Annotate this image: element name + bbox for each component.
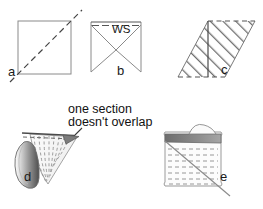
panel-e-drawing <box>150 96 263 209</box>
panel-e-label: e <box>220 170 227 183</box>
panel-d-label: d <box>24 170 31 183</box>
folded-flap-e <box>189 124 216 134</box>
top-band-shaded-e <box>165 134 221 143</box>
panel-c <box>150 0 263 100</box>
panel-b-drawing <box>80 0 160 100</box>
panel-c-drawing <box>150 0 263 100</box>
panel-b <box>80 0 160 100</box>
panel-c-label: c <box>221 63 228 76</box>
panel-d <box>0 96 130 209</box>
figure-canvas: a WS b <box>0 0 263 209</box>
panel-a-label: a <box>8 65 15 78</box>
panel-d-drawing <box>0 96 130 209</box>
panel-b-label: b <box>117 64 124 77</box>
parallelogram-hatch-fill-c <box>178 21 255 77</box>
panel-e <box>150 96 263 209</box>
v-leg-left-b <box>91 50 116 72</box>
wrong-side-label: WS <box>112 24 131 36</box>
